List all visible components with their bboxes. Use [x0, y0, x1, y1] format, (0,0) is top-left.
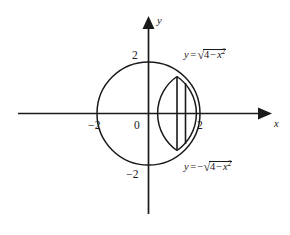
figure-container: y x 2 −2 −2 0 2 y=√4−x2 y=−√4−x2: [0, 0, 290, 235]
x-axis-label: x: [274, 119, 279, 130]
equation-lower-lhs: y: [184, 161, 189, 172]
equation-upper-radicand-exponent: 2: [222, 47, 226, 55]
equation-upper-equals: =: [189, 49, 198, 60]
x-tick-label-neg2: −2: [88, 120, 101, 132]
y-axis-arrowhead: [143, 16, 155, 29]
equation-upper-lhs: y: [184, 49, 189, 60]
equation-lower-radicand-exponent: 2: [228, 159, 232, 167]
equation-upper: y=√4−x2: [184, 48, 226, 61]
equation-upper-radicand: 4−x2: [203, 49, 226, 61]
origin-label: 0: [134, 120, 140, 132]
equation-lower-radicand-operator: −: [215, 161, 223, 172]
y-axis-label: y: [157, 16, 162, 27]
y-tick-label-neg2: −2: [126, 169, 139, 181]
x-axis-arrowhead: [258, 108, 272, 120]
equation-upper-radicand-operator: −: [209, 49, 217, 60]
equation-upper-radical: √4−x2: [198, 48, 227, 61]
equation-lower: y=−√4−x2: [184, 160, 232, 173]
figure-canvas: [0, 0, 290, 235]
x-tick-label-2: 2: [197, 120, 203, 132]
equation-lower-radical: √4−x2: [204, 160, 233, 173]
equation-lower-equals: =: [189, 161, 198, 172]
y-tick-label-2: 2: [132, 50, 138, 62]
equation-lower-radicand: 4−x2: [209, 161, 232, 173]
